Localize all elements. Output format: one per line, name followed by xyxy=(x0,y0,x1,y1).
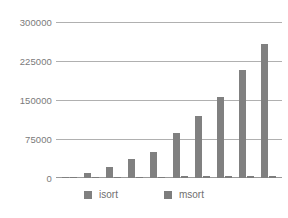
bar-group xyxy=(258,22,280,178)
bar-isort xyxy=(239,70,246,178)
chart-legend: isort msort xyxy=(0,190,288,200)
bars-layer xyxy=(56,22,282,178)
bar-group xyxy=(102,22,124,178)
legend-label: isort xyxy=(99,190,118,200)
legend-item-msort: msort xyxy=(164,190,204,200)
bar-group xyxy=(169,22,191,178)
bar-group xyxy=(236,22,258,178)
bar-isort xyxy=(128,159,135,178)
bar-chart: 300000 225000 150000 75000 0 isort msort xyxy=(0,0,288,218)
bar-msort xyxy=(136,177,143,178)
bar-msort xyxy=(203,176,210,178)
bar-isort xyxy=(173,133,180,178)
bar-isort xyxy=(261,44,268,178)
y-tick-label: 75000 xyxy=(0,135,52,145)
bar-group xyxy=(58,22,80,178)
y-tick-label: 0 xyxy=(0,174,52,184)
bar-group xyxy=(191,22,213,178)
bar-msort xyxy=(269,176,276,178)
bar-msort xyxy=(247,176,254,178)
bar-group xyxy=(125,22,147,178)
bar-isort xyxy=(62,177,69,178)
legend-label: msort xyxy=(179,190,204,200)
bar-msort xyxy=(181,176,188,178)
bar-group xyxy=(213,22,235,178)
legend-swatch-icon xyxy=(164,191,172,199)
bar-isort xyxy=(150,152,157,178)
bar-group xyxy=(147,22,169,178)
legend-item-isort: isort xyxy=(84,190,118,200)
bar-msort xyxy=(114,177,121,178)
bar-isort xyxy=(195,116,202,178)
bar-isort xyxy=(106,167,113,178)
y-tick-label: 150000 xyxy=(0,96,52,106)
bar-isort xyxy=(217,97,224,178)
bar-msort xyxy=(158,177,165,178)
legend-swatch-icon xyxy=(84,191,92,199)
y-tick-label: 300000 xyxy=(0,18,52,28)
bar-msort xyxy=(92,177,99,178)
bar-group xyxy=(80,22,102,178)
bar-msort xyxy=(70,177,77,178)
bar-isort xyxy=(84,173,91,178)
bar-msort xyxy=(225,176,232,178)
y-tick-label: 225000 xyxy=(0,57,52,67)
